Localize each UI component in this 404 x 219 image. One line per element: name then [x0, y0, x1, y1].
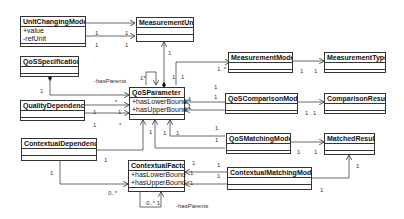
class-name: QoSParameter — [130, 88, 184, 98]
class-attributes: +value -refUnit — [21, 27, 85, 44]
class-attributes — [325, 63, 385, 70]
multiplicity-label: 1 — [217, 162, 220, 168]
multiplicity-label: 1 — [190, 180, 193, 186]
class-attributes — [325, 104, 385, 111]
multiplicity-label: 1..* — [217, 66, 226, 72]
class-operations — [21, 74, 78, 80]
class-attributes — [228, 178, 311, 185]
multiplicity-label: * — [115, 99, 117, 105]
class-matched-result[interactable]: MatchedResult — [324, 133, 375, 155]
multiplicity-label: 1 — [93, 109, 96, 115]
multiplicity-label: 1 — [356, 163, 359, 169]
class-contextual-factor[interactable]: ContextualFactor +hasLowerBound +hasUppe… — [128, 160, 185, 192]
multiplicity-label: 1 — [125, 42, 128, 48]
multiplicity-label: * — [119, 122, 121, 128]
class-attributes: +hasLowerBound +hasUpperBound — [130, 98, 184, 115]
class-name: ContextualFactor — [129, 161, 184, 171]
class-name: QoSComparisonModel — [226, 94, 297, 104]
class-attribute: -refUnit — [21, 35, 85, 43]
class-attributes — [137, 28, 193, 35]
class-attributes: +hasLowerBound +hasUpperBound — [129, 171, 184, 188]
uml-class-diagram: UnitChangingModel +value -refUnit Measur… — [0, 0, 404, 219]
class-attributes — [325, 144, 374, 151]
class-attributes — [229, 63, 292, 70]
multiplicity-label: 1 — [214, 94, 217, 100]
multiplicity-label: 1 — [181, 74, 184, 80]
class-attribute: +value — [21, 27, 85, 35]
multiplicity-label: 1 — [188, 96, 191, 102]
role-label: -hasParents — [94, 78, 126, 84]
multiplicity-label: 1 — [190, 170, 193, 176]
multiplicity-label: 1 — [95, 30, 98, 36]
multiplicity-label: 1 — [192, 160, 195, 166]
multiplicity-label: 1 — [217, 173, 220, 179]
multiplicity-label: 1 — [104, 157, 107, 163]
class-name: MeasurementUnit — [137, 18, 193, 28]
class-operations — [137, 35, 193, 41]
class-name: MeasurementModel — [229, 53, 292, 63]
multiplicity-label: 1 — [297, 149, 300, 155]
class-attributes — [227, 144, 290, 151]
class-attribute: +hasLowerBound — [130, 98, 184, 106]
class-name: ContextualDependency — [22, 139, 96, 149]
class-operations — [325, 70, 385, 76]
multiplicity-label: 1 — [320, 187, 323, 193]
multiplicity-label: 1* — [140, 75, 146, 81]
class-qos-matching-model[interactable]: QoSMatchingModel — [226, 133, 291, 154]
class-qos-parameter[interactable]: QoSParameter +hasLowerBound +hasUpperBou… — [129, 87, 185, 120]
class-contextual-matching-model[interactable]: ContextualMatchingModel — [227, 167, 312, 190]
multiplicity-label: 1 — [93, 122, 96, 128]
multiplicity-label: 1 — [214, 84, 217, 90]
class-measurement-type[interactable]: MeasurementType — [324, 52, 386, 73]
multiplicity-label: 1 — [172, 74, 175, 80]
class-unit-changing-model[interactable]: UnitChangingModel +value -refUnit — [20, 16, 86, 47]
multiplicity-label: 0..* — [108, 190, 117, 196]
class-operations — [21, 44, 85, 50]
multiplicity-label: 1 — [50, 170, 53, 176]
class-qos-specification[interactable]: QoSSpecification — [20, 56, 79, 77]
role-label: -hasParents — [176, 203, 208, 209]
class-operations — [129, 188, 184, 194]
class-operations — [22, 156, 96, 162]
multiplicity-label: 1 — [300, 68, 303, 74]
multiplicity-label: 1 — [314, 68, 317, 74]
class-attributes — [21, 111, 84, 118]
class-name: ContextualMatchingModel — [228, 168, 311, 178]
multiplicity-label: 0..* 1 — [146, 200, 160, 206]
class-name: MeasurementType — [325, 53, 385, 63]
class-measurement-model[interactable]: MeasurementModel — [228, 52, 293, 73]
multiplicity-label: 1 — [176, 130, 179, 136]
class-attributes — [21, 67, 78, 74]
class-attribute: +hasLowerBound — [129, 171, 184, 179]
multiplicity-label: 1 — [168, 50, 171, 56]
class-contextual-dependency[interactable]: ContextualDependency — [21, 138, 97, 161]
multiplicity-label: 1 — [314, 149, 317, 155]
multiplicity-label: 1 — [95, 42, 98, 48]
class-operations — [325, 151, 374, 157]
class-attributes — [22, 149, 96, 156]
class-operations — [325, 111, 385, 117]
class-name: MatchedResult — [325, 134, 374, 144]
class-name: QoSMatchingModel — [227, 134, 290, 144]
class-qos-comparison-model[interactable]: QoSComparisonModel — [225, 93, 298, 114]
class-operations — [229, 70, 292, 76]
class-name: ComparisonResult — [325, 94, 385, 104]
multiplicity-label: 1 — [125, 30, 128, 36]
class-operations — [130, 115, 184, 121]
class-quality-dependency[interactable]: QualityDependency — [20, 100, 85, 121]
class-name: QoSSpecification — [21, 57, 78, 67]
class-name: QualityDependency — [21, 101, 84, 111]
multiplicity-label: 1 — [215, 137, 218, 143]
multiplicity-label: 1 — [305, 110, 308, 116]
multiplicity-label: 1 — [149, 129, 152, 135]
multiplicity-label: 1 — [40, 88, 43, 94]
multiplicity-label: 1 — [163, 130, 166, 136]
multiplicity-label: 1 — [188, 104, 191, 110]
class-operations — [226, 111, 297, 117]
class-comparison-result[interactable]: ComparisonResult — [324, 93, 386, 114]
class-attributes — [226, 104, 297, 111]
class-operations — [21, 118, 84, 124]
class-measurement-unit[interactable]: MeasurementUnit — [136, 17, 194, 42]
class-attribute: +hasUpperBound — [130, 106, 184, 114]
multiplicity-label: 1 — [215, 125, 218, 131]
